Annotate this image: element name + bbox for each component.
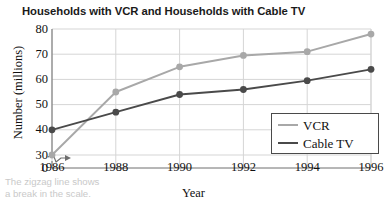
legend-label-vcr: VCR — [303, 119, 330, 132]
x-tick-label-1996: 1996 — [348, 160, 387, 175]
chart-legend: VCR Cable TV — [271, 113, 379, 154]
scale-break-caption: The zigzag line shows a break in the sca… — [5, 176, 165, 199]
legend-swatch-cable-tv — [278, 142, 298, 144]
x-tick-label-1988: 1988 — [93, 160, 139, 175]
caption-line-2: a break in the scale. — [5, 188, 165, 200]
legend-item-vcr: VCR — [278, 116, 330, 134]
x-tick-label-1994: 1994 — [284, 160, 330, 175]
chart-figure: Households with VCR and Households with … — [0, 0, 387, 211]
legend-label-cable-tv: Cable TV — [303, 137, 354, 150]
legend-swatch-vcr — [278, 124, 298, 126]
caption-line-1: The zigzag line shows — [5, 176, 165, 188]
x-tick-label-1986: 1986 — [29, 160, 75, 175]
legend-item-cable-tv: Cable TV — [278, 134, 354, 152]
x-tick-label-1990: 1990 — [157, 160, 203, 175]
x-tick-label-1992: 1992 — [220, 160, 266, 175]
